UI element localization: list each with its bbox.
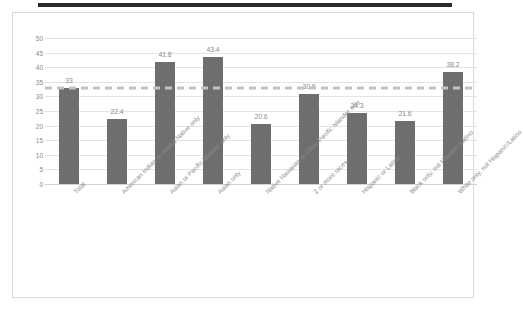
chart-frame: 3322.441.843.420.630.924.321.638.2 05101… [12,12,474,298]
bar [203,57,223,184]
plot-area: 3322.441.843.420.630.924.321.638.2 [45,38,477,184]
bar [395,121,415,184]
y-axis-tick-label: 10 [27,151,43,158]
average-reference-line [45,86,477,89]
y-axis-tick-label: 25 [27,108,43,115]
y-axis-tick-label: 40 [27,64,43,71]
gridline [45,96,477,97]
y-axis-tick-label: 35 [27,78,43,85]
bar [251,124,271,184]
bar-value-label: 22.4 [110,108,123,115]
bar [59,88,79,184]
y-axis-tick-label: 5 [27,166,43,173]
bar-value-label: 38.2 [446,61,459,68]
y-axis-tick-label: 15 [27,137,43,144]
gridline [45,67,477,68]
bar [443,72,463,184]
gridline [45,53,477,54]
y-axis-tick-label: 20 [27,122,43,129]
gridline [45,82,477,83]
y-axis-tick-label: 30 [27,93,43,100]
y-axis-tick-label: 0 [27,181,43,188]
bar-value-label: 21.6 [398,110,411,117]
y-axis-tick-label: 45 [27,49,43,56]
bar-value-label: 43.4 [206,46,219,53]
bar-value-label: 33 [65,77,73,84]
bar [155,62,175,184]
bar-value-label: 41.8 [158,51,171,58]
bar-value-label: 20.6 [254,113,267,120]
bar [347,113,367,184]
bar [107,119,127,184]
gridline [45,38,477,39]
title-redaction-bar [38,3,452,7]
y-axis-tick-label: 50 [27,35,43,42]
